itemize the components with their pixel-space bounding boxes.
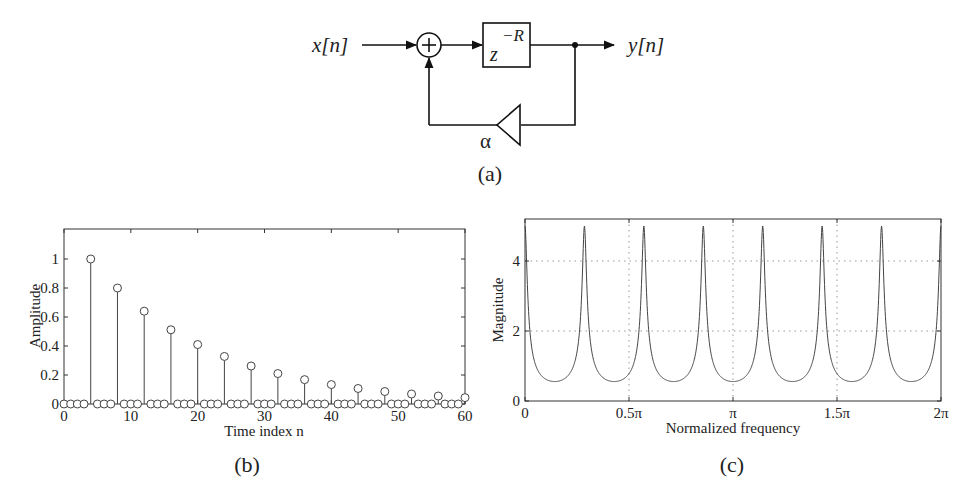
- stem-marker: [327, 381, 335, 389]
- magnitude-response-chart: 00.5ππ1.5π2π024 Magnitude Normalized fre…: [490, 219, 949, 477]
- delay-label-base: z: [489, 43, 498, 65]
- chart-c-xlabel: Normalized frequency: [666, 420, 801, 436]
- stem-marker: [347, 400, 355, 408]
- x-tick-label: 0: [60, 408, 68, 424]
- x-tick-label: 40: [324, 408, 339, 424]
- chart-b-ylabel: Amplitude: [27, 284, 43, 349]
- stem-marker: [113, 284, 121, 292]
- block-diagram: x[n] z −R y[n] α (a): [311, 23, 664, 186]
- output-label: y[n]: [626, 33, 664, 57]
- figure: x[n] z −R y[n] α (a) 010203040506000.20.…: [0, 0, 967, 496]
- stem-marker: [274, 370, 282, 378]
- x-tick-label: 50: [391, 408, 406, 424]
- caption-b: (b): [234, 452, 260, 477]
- stem-marker: [381, 388, 389, 396]
- stem-marker: [220, 352, 228, 360]
- x-tick-label: 0.5π: [616, 405, 643, 421]
- delay-label-exponent: −R: [502, 26, 524, 45]
- feedback-path: [521, 45, 575, 125]
- y-tick-label: 0: [52, 396, 60, 412]
- stem-marker: [401, 400, 409, 408]
- stem-marker: [80, 400, 88, 408]
- stem-marker: [294, 400, 302, 408]
- stem-marker: [240, 400, 248, 408]
- chart-b-frame: [64, 229, 465, 404]
- y-tick-label: 1: [52, 251, 60, 267]
- y-tick-label: 0.6: [40, 309, 59, 325]
- stem-marker: [434, 392, 442, 400]
- stem-marker: [461, 394, 469, 402]
- gain-label: α: [480, 129, 491, 153]
- stem-marker: [374, 400, 382, 408]
- y-tick-label: 0.2: [40, 367, 59, 383]
- stem-marker: [267, 400, 275, 408]
- stem-marker: [301, 376, 309, 384]
- x-tick-label: 30: [257, 408, 272, 424]
- caption-c: (c): [720, 452, 744, 477]
- stem-marker: [454, 400, 462, 408]
- caption-a: (a): [478, 161, 502, 186]
- stem-marker: [134, 400, 142, 408]
- stem-marker: [354, 384, 362, 392]
- y-tick-label: 0.8: [40, 280, 59, 296]
- stem-marker: [247, 362, 255, 370]
- stem-marker: [187, 400, 195, 408]
- input-label: x[n]: [311, 33, 348, 57]
- stem-marker: [194, 341, 202, 349]
- impulse-response-chart: 010203040506000.20.40.60.81 Amplitude Ti…: [27, 229, 473, 477]
- y-tick-label: 2: [513, 323, 521, 339]
- stem-marker: [321, 400, 329, 408]
- stem-marker: [140, 307, 148, 315]
- y-tick-label: 4: [513, 253, 521, 269]
- stem-marker: [214, 400, 222, 408]
- stem-marker: [408, 390, 416, 398]
- x-tick-label: 10: [123, 408, 138, 424]
- stem-marker: [87, 255, 95, 263]
- stem-marker: [107, 400, 115, 408]
- adder: [417, 33, 441, 57]
- y-tick-label: 0: [513, 393, 521, 409]
- stem-marker: [167, 326, 175, 334]
- gain-triangle-icon: [497, 105, 520, 145]
- x-tick-label: 60: [458, 408, 473, 424]
- y-tick-label: 0.4: [40, 338, 59, 354]
- magnitude-curve: [525, 226, 941, 382]
- x-tick-label: 0: [521, 405, 529, 421]
- x-tick-label: π: [729, 405, 737, 421]
- x-tick-label: 1.5π: [824, 405, 851, 421]
- chart-c-ylabel: Magnitude: [490, 277, 506, 342]
- stem-marker: [160, 400, 168, 408]
- chart-b-xlabel: Time index n: [224, 423, 304, 439]
- x-tick-label: 20: [190, 408, 205, 424]
- x-tick-label: 2π: [933, 405, 949, 421]
- stem-marker: [428, 400, 436, 408]
